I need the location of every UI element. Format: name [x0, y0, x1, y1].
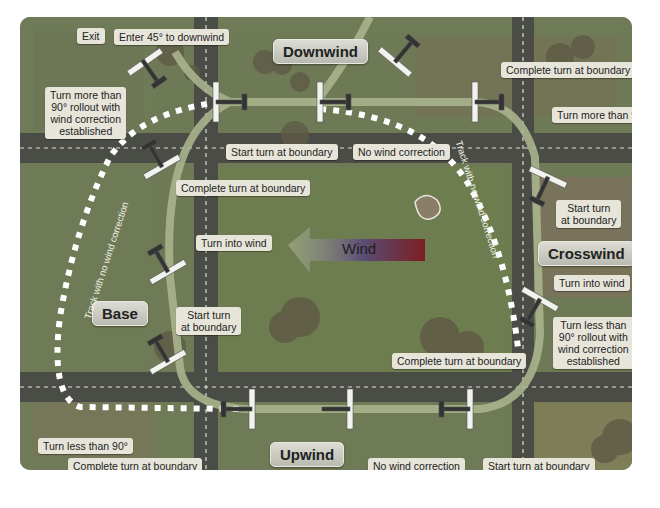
callout-start-turn-boundary-bottom: Start turn at boundary — [483, 458, 595, 470]
callout-turn-more-90: Turn more than 90° — [552, 107, 632, 123]
callout-complete-turn-boundary-bottom-right: Complete turn at boundary — [392, 353, 526, 369]
leg-label-downwind: Downwind — [273, 39, 368, 64]
callout-complete-turn-boundary-top-left: Complete turn at boundary — [176, 180, 310, 196]
leg-label-crosswind: Crosswind — [538, 241, 632, 266]
callout-start-turn-boundary-right: Start turn at boundary — [556, 200, 621, 228]
callout-turn-less-90: Turn less than 90° — [38, 438, 133, 454]
callout-turn-into-wind-right: Turn into wind — [554, 275, 630, 291]
leg-label-upwind: Upwind — [270, 442, 344, 467]
callout-no-wind-correction-bottom: No wind correction — [368, 458, 465, 470]
callout-enter-45: Enter 45° to downwind — [114, 29, 229, 45]
callout-turn-more-90-rollout: Turn more than 90° rollout with wind cor… — [45, 87, 126, 139]
callout-complete-turn-boundary-bottom-left: Complete turn at boundary — [68, 458, 202, 470]
callout-no-wind-correction-top: No wind correction — [353, 144, 450, 160]
traffic-pattern-diagram: Downwind Crosswind Upwind Base Wind Trac… — [20, 17, 632, 470]
callout-start-turn-boundary-top: Start turn at boundary — [226, 144, 338, 160]
callout-complete-turn-boundary-top-right: Complete turn at boundary — [501, 62, 632, 78]
wind-label: Wind — [342, 240, 376, 257]
callout-turn-less-90-rollout: Turn less than 90° rollout with wind cor… — [553, 317, 632, 369]
callout-start-turn-boundary-left: Start turn at boundary — [176, 307, 241, 335]
callout-turn-into-wind-left: Turn into wind — [196, 235, 272, 251]
callout-exit: Exit — [77, 28, 105, 44]
leg-label-base: Base — [92, 301, 148, 326]
